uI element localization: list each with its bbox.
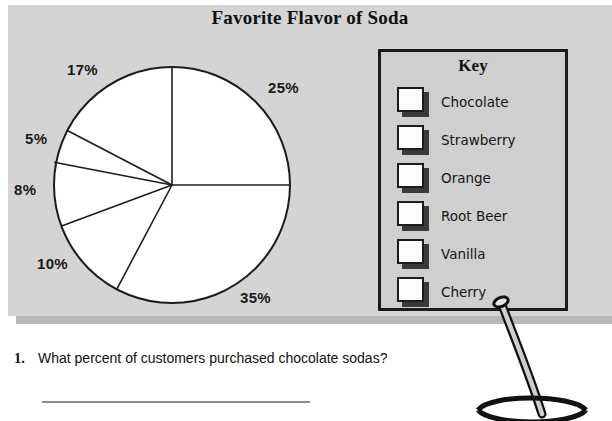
question-number: 1.: [14, 350, 38, 367]
key-swatch-root-beer: [397, 201, 431, 231]
key-swatch-cherry: [397, 277, 431, 307]
pie-chart-svg: [52, 65, 292, 305]
glass-rim-icon: [478, 398, 586, 421]
key-label-chocolate: Chocolate: [441, 94, 509, 110]
key-item-root-beer: Root Beer: [397, 197, 565, 235]
key-item-cherry: Cherry: [397, 273, 565, 311]
swatch-square: [397, 201, 424, 226]
pie-label-vanilla: 5%: [25, 130, 47, 147]
swatch-square: [397, 163, 424, 188]
pie-chart: [52, 65, 292, 305]
question-1: 1. What percent of customers purchased c…: [14, 350, 484, 367]
key-heading: Key: [381, 56, 565, 76]
chart-title: Favorite Flavor of Soda: [8, 7, 612, 29]
pie-label-cherry: 17%: [67, 61, 98, 78]
pie-label-root-beer: 8%: [14, 181, 36, 198]
key-swatch-strawberry: [397, 125, 431, 155]
key-item-chocolate: Chocolate: [397, 83, 565, 121]
key-list: Chocolate Strawberry Orange: [397, 83, 565, 311]
key-label-cherry: Cherry: [441, 284, 486, 300]
question-text: What percent of customers purchased choc…: [38, 350, 387, 366]
key-swatch-vanilla: [397, 239, 431, 269]
key-label-strawberry: Strawberry: [441, 132, 515, 148]
worksheet-page: Favorite Flavor of Soda 25% 35% 10% 8% 5…: [0, 0, 612, 421]
swatch-square: [397, 239, 424, 264]
key-swatch-orange: [397, 163, 431, 193]
swatch-square: [397, 277, 424, 302]
pie-label-orange: 10%: [37, 255, 68, 272]
key-item-vanilla: Vanilla: [397, 235, 565, 273]
key-label-orange: Orange: [441, 170, 491, 186]
answer-blank-line[interactable]: [42, 401, 310, 403]
key-item-orange: Orange: [397, 159, 565, 197]
key-swatch-chocolate: [397, 87, 431, 117]
swatch-square: [397, 125, 424, 150]
pie-label-chocolate: 25%: [268, 79, 299, 96]
chart-key-box: Key Chocolate Strawberry: [378, 49, 568, 311]
key-item-strawberry: Strawberry: [397, 121, 565, 159]
swatch-square: [397, 87, 424, 112]
pie-label-strawberry: 35%: [240, 289, 271, 306]
key-label-root-beer: Root Beer: [441, 208, 507, 224]
key-label-vanilla: Vanilla: [441, 246, 486, 262]
